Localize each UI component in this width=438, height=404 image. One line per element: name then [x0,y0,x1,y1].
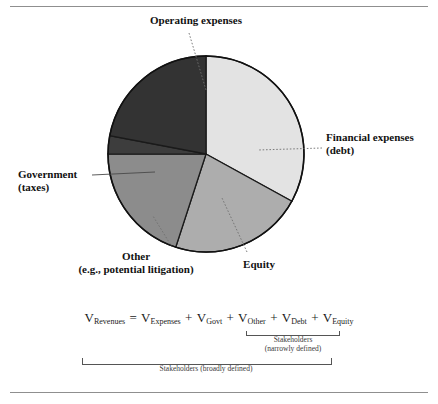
pie-label-financial-line2: (debt) [326,144,414,157]
bottom-divider-rule [10,392,428,393]
pie-label-financial-expenses: Financial expenses (debt) [326,131,414,156]
pie-label-other-line2: (e.g., potential litigation) [46,263,226,276]
pie-slices-group [108,56,304,252]
equation-equals: = [128,310,137,325]
pie-label-government: Government (taxes) [18,168,77,193]
equation-term-govt: VGovt [197,310,223,325]
equation-plus-1: + [184,310,193,325]
pie-chart-figure: Operating expenses Financial expenses (d… [0,0,438,404]
equation-term-debt: VDebt [282,310,307,325]
value-equation: VRevenues = VExpenses + VGovt + VOther +… [0,310,438,326]
equation-plus-2: + [226,310,235,325]
pie-label-government-line1: Government [18,168,77,181]
equation-term-equity: VEquity [323,310,354,325]
equation-plus-3: + [269,310,278,325]
pie-label-government-line2: (taxes) [18,181,77,194]
stakeholders-narrow-caption: Stakeholders (narrowly defined) [238,336,348,353]
stakeholders-broad-caption: Stakeholders (broadly defined) [82,365,330,374]
equation-plus-4: + [310,310,319,325]
equation-term-revenues: VRevenues [84,310,125,325]
pie-label-financial-line1: Financial expenses [326,131,414,144]
pie-label-equity: Equity [214,258,304,271]
equation-term-other: VOther [238,310,266,325]
pie-label-other-line1: Other [46,250,226,263]
equation-term-expenses: VExpenses [141,310,181,325]
pie-label-operating-expenses: Operating expenses [106,14,286,27]
stakeholders-narrow-line2: (narrowly defined) [238,345,348,354]
value-equation-block: VRevenues = VExpenses + VGovt + VOther +… [0,310,438,326]
pie-label-other: Other (e.g., potential litigation) [46,250,226,275]
